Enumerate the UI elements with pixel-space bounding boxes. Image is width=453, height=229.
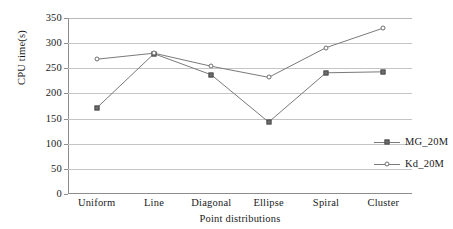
data-point xyxy=(94,57,99,62)
data-point xyxy=(324,45,329,50)
legend-item-kd-20m[interactable]: Kd_20M xyxy=(374,153,453,175)
y-tick-label: 300 xyxy=(46,38,62,49)
data-point xyxy=(324,70,329,75)
y-tick-label: 0 xyxy=(57,189,62,200)
y-tick-label: 200 xyxy=(46,88,62,99)
data-point xyxy=(209,64,214,69)
x-tick-label: Uniform xyxy=(78,198,116,209)
data-point xyxy=(266,120,271,125)
data-point xyxy=(381,69,386,74)
legend-swatch-open-circle-icon xyxy=(374,159,400,169)
x-axis-title: Point distributions xyxy=(68,213,412,224)
plot-area: MG_20M Kd_20M xyxy=(68,18,412,194)
y-tick-label: 50 xyxy=(51,164,62,175)
x-tick-label: Cluster xyxy=(367,198,399,209)
y-tick-mark xyxy=(64,194,68,195)
legend-label-mg-20m: MG_20M xyxy=(405,137,448,148)
x-axis-tick-labels: UniformLineDiagonalEllipseSpiralCluster xyxy=(68,198,412,212)
y-tick-label: 100 xyxy=(46,138,62,149)
x-tick-label: Diagonal xyxy=(191,198,231,209)
y-tick-label: 350 xyxy=(46,13,62,24)
data-point xyxy=(152,51,157,56)
x-tick-label: Ellipse xyxy=(253,198,284,209)
data-point xyxy=(209,72,214,77)
data-point xyxy=(381,26,386,31)
legend-item-mg-20m[interactable]: MG_20M xyxy=(374,131,453,153)
x-tick-label: Line xyxy=(144,198,164,209)
series-lines xyxy=(68,18,412,194)
y-tick-label: 250 xyxy=(46,63,62,74)
x-tick-label: Spiral xyxy=(313,198,339,209)
data-point xyxy=(94,106,99,111)
legend: MG_20M Kd_20M xyxy=(374,131,453,175)
data-point xyxy=(266,75,271,80)
y-axis-title: CPU time(s) xyxy=(16,0,27,129)
legend-label-kd-20m: Kd_20M xyxy=(405,159,444,170)
y-axis-tick-labels: 050100150200250300350 xyxy=(36,18,62,194)
legend-swatch-filled-square-icon xyxy=(374,137,400,147)
y-tick-label: 150 xyxy=(46,113,62,124)
series-line-kd_20m xyxy=(97,28,384,77)
series-line-mg_20m xyxy=(97,54,384,122)
